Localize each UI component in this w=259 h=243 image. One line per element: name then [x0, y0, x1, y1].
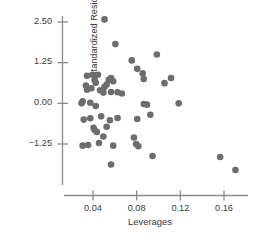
- scatter-point: [100, 133, 107, 140]
- scatter-point: [108, 89, 115, 96]
- x-axis-title: Leverages: [60, 216, 240, 227]
- scatter-point: [144, 101, 151, 108]
- scatter-point: [149, 153, 156, 160]
- scatter-plot-figure: Standardized Residuals 2.501.250.00−1.25…: [0, 0, 259, 243]
- scatter-point: [78, 100, 85, 107]
- scatter-point: [87, 115, 94, 122]
- scatter-point: [217, 154, 224, 161]
- scatter-point: [135, 143, 142, 150]
- scatter-point: [98, 113, 105, 120]
- scatter-point: [131, 134, 138, 141]
- x-axis-tick-label: 0.12: [160, 203, 200, 213]
- scatter-point: [112, 41, 119, 48]
- scatter-point: [94, 129, 101, 136]
- data-points: [78, 16, 239, 173]
- scatter-point: [107, 117, 114, 124]
- scatter-point: [168, 75, 175, 82]
- scatter-point: [92, 103, 99, 110]
- y-axis-tick-label: 1.25: [12, 56, 52, 66]
- scatter-point: [96, 140, 103, 147]
- scatter-point: [134, 116, 141, 123]
- scatter-point: [110, 142, 117, 149]
- scatter-point: [110, 78, 117, 85]
- scatter-point: [80, 116, 87, 123]
- scatter-point: [88, 85, 95, 92]
- scatter-point: [119, 90, 126, 97]
- scatter-point: [140, 76, 147, 83]
- y-axis-tick-label: 0.00: [12, 97, 52, 107]
- scatter-point: [139, 70, 146, 77]
- scatter-point: [128, 57, 135, 64]
- y-axis-tick-label: −1.25: [12, 138, 52, 148]
- scatter-point: [161, 80, 168, 87]
- scatter-point: [108, 161, 115, 168]
- x-axis-tick-label: 0.08: [117, 203, 157, 213]
- scatter-point: [101, 16, 108, 23]
- scatter-point: [103, 123, 110, 130]
- scatter-point: [114, 115, 121, 122]
- scatter-point: [100, 89, 107, 96]
- x-axis-tick-label: 0.16: [204, 203, 244, 213]
- scatter-point: [134, 66, 141, 73]
- scatter-point: [154, 51, 161, 58]
- scatter-point: [85, 142, 92, 149]
- x-axis-tick-label: 0.04: [73, 203, 113, 213]
- scatter-point: [232, 167, 239, 174]
- scatter-point: [175, 100, 182, 107]
- y-axis-tick-label: 2.50: [12, 16, 52, 26]
- scatter-point: [147, 111, 154, 118]
- scatter-point: [92, 80, 99, 87]
